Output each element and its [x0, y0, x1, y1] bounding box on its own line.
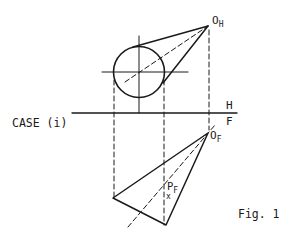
plane-label-h: H [226, 99, 233, 112]
orthographic-projection-diagram: OH H F CASE (i) OF PF x Fig. 1 [0, 0, 289, 240]
plane-label-f: F [226, 115, 233, 128]
upper-tangent-line-top-view [133, 26, 208, 47]
lower-tangent-line-top-view [163, 26, 208, 83]
point-marker-p-f: x [166, 192, 171, 201]
point-label-o-f: OF [210, 129, 222, 144]
cone-front-view-triangle [113, 133, 208, 225]
axis-dashed-top-view [125, 26, 208, 82]
point-label-o-h: OH [212, 14, 224, 29]
case-label: CASE (i) [12, 116, 67, 130]
figure-caption: Fig. 1 [238, 207, 280, 221]
